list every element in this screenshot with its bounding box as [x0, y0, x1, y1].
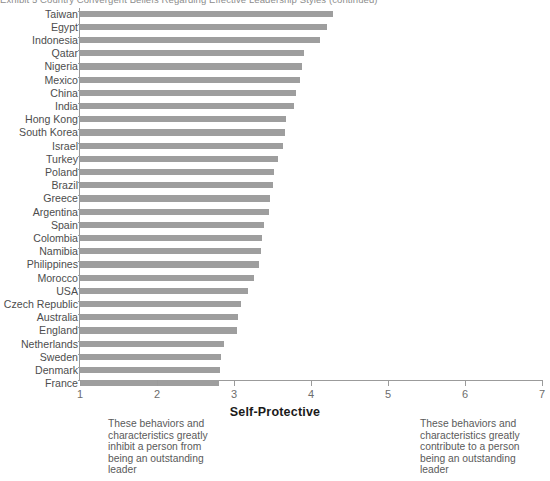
x-axis-title: Self-Protective: [0, 405, 550, 419]
figure-title: Exhibit 5 Country Convergent Beliefs Reg…: [0, 0, 550, 5]
bar: [80, 367, 220, 373]
bar-row-label: Nigeria: [0, 60, 78, 73]
bar-row: Philippines: [0, 259, 550, 272]
bar-row-label: Morocco: [0, 272, 78, 285]
x-axis-tick: [542, 380, 543, 386]
x-axis-tick-label: 3: [224, 388, 244, 400]
x-axis-tick: [157, 380, 158, 386]
bar: [80, 380, 219, 386]
bar-row: Greece: [0, 193, 550, 206]
bar-row: Israel: [0, 140, 550, 153]
bar-row-label: Denmark: [0, 364, 78, 377]
bar: [80, 354, 221, 360]
bar: [80, 182, 273, 188]
bar: [80, 261, 259, 267]
bar-row-label: Indonesia: [0, 34, 78, 47]
bar-row: Nigeria: [0, 61, 550, 74]
bar-row: Morocco: [0, 272, 550, 285]
x-axis-tick-label: 1: [70, 388, 90, 400]
x-axis-tick-label: 6: [455, 388, 475, 400]
bar: [80, 222, 264, 228]
bar-row-label: Philippines: [0, 258, 78, 271]
bar-row: Poland: [0, 166, 550, 179]
bar-row-label: Poland: [0, 166, 78, 179]
bar: [80, 275, 254, 281]
bar-row: China: [0, 87, 550, 100]
bar: [80, 327, 237, 333]
bar: [80, 288, 248, 294]
bar-row-label: Brazil: [0, 179, 78, 192]
bar-row: Namibia: [0, 246, 550, 259]
x-axis-tick-label: 7: [532, 388, 550, 400]
bar: [80, 169, 274, 175]
bar: [80, 209, 269, 215]
bar: [80, 235, 262, 241]
bar: [80, 63, 302, 69]
bar-row: Argentina: [0, 206, 550, 219]
x-axis-tick-label: 5: [378, 388, 398, 400]
bar-row-label: India: [0, 100, 78, 113]
bar-row-label: Hong Kong: [0, 113, 78, 126]
bar-row: Australia: [0, 312, 550, 325]
bar-row: Hong Kong: [0, 114, 550, 127]
bar-row-label: Qatar: [0, 47, 78, 60]
bar-row: South Korea: [0, 127, 550, 140]
bar-row: Sweden: [0, 351, 550, 364]
bar: [80, 301, 241, 307]
bar-row: England: [0, 325, 550, 338]
x-axis-tick: [388, 380, 389, 386]
bar: [80, 156, 278, 162]
bar-row: Mexico: [0, 74, 550, 87]
bar-row-label: Czech Republic: [0, 298, 78, 311]
bar-row-label: South Korea: [0, 126, 78, 139]
bar: [80, 195, 270, 201]
bar-row: Denmark: [0, 364, 550, 377]
bar-row-label: Spain: [0, 219, 78, 232]
self-protective-bar-chart: Exhibit 5 Country Convergent Beliefs Reg…: [0, 0, 550, 481]
bar-row-label: China: [0, 87, 78, 100]
bar: [80, 50, 304, 56]
bar-row-label: France: [0, 377, 78, 390]
bar-row: Netherlands: [0, 338, 550, 351]
bar-row-label: Taiwan: [0, 8, 78, 21]
x-axis-tick: [465, 380, 466, 386]
bar: [80, 77, 300, 83]
bar-row: Brazil: [0, 180, 550, 193]
bar: [80, 129, 285, 135]
bar-row-label: USA: [0, 285, 78, 298]
bar-row: Spain: [0, 219, 550, 232]
bar: [80, 341, 224, 347]
bar-row-label: Israel: [0, 140, 78, 153]
bar-row-label: Australia: [0, 311, 78, 324]
bar-row: Turkey: [0, 153, 550, 166]
bar-row: Egypt: [0, 21, 550, 34]
bar-row-label: Egypt: [0, 21, 78, 34]
bar-row: Taiwan: [0, 8, 550, 21]
bar-row: Czech Republic: [0, 298, 550, 311]
bar-row-label: Turkey: [0, 153, 78, 166]
x-axis-tick-label: 2: [147, 388, 167, 400]
bar-row-label: Greece: [0, 192, 78, 205]
annotation-right: These behaviors and characteristics grea…: [420, 418, 540, 476]
bar: [80, 248, 261, 254]
x-axis-tick: [311, 380, 312, 386]
bar: [80, 11, 333, 17]
annotation-left: These behaviors and characteristics grea…: [108, 418, 228, 476]
bar: [80, 143, 283, 149]
bar: [80, 116, 286, 122]
bar: [80, 24, 327, 30]
bar: [80, 103, 294, 109]
bar: [80, 37, 320, 43]
bar: [80, 314, 238, 320]
bar-row: Colombia: [0, 232, 550, 245]
x-axis-tick: [80, 380, 81, 386]
bar-row-label: Argentina: [0, 206, 78, 219]
bar-row: USA: [0, 285, 550, 298]
bar-row: India: [0, 100, 550, 113]
bar-row-label: Sweden: [0, 351, 78, 364]
bar: [80, 90, 296, 96]
bar-row-label: Colombia: [0, 232, 78, 245]
bar-row-label: Mexico: [0, 74, 78, 87]
bar-row-label: Namibia: [0, 245, 78, 258]
bar-row-label: Netherlands: [0, 338, 78, 351]
